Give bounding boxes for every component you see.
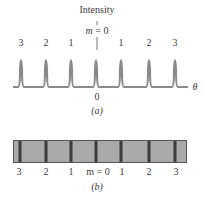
caption-a: (a) — [91, 106, 103, 116]
bright-fringe — [95, 141, 98, 162]
intensity-curve — [0, 0, 205, 110]
bright-fringe — [120, 141, 123, 162]
fringe-label: 2 — [147, 167, 152, 177]
fringe-label: 3 — [17, 167, 22, 177]
bright-fringe — [70, 141, 73, 162]
bright-fringe — [19, 141, 22, 162]
fringe-label-center: m = 0 — [86, 167, 109, 177]
bright-fringe — [174, 141, 177, 162]
bright-fringe — [148, 141, 151, 162]
fringe-label: 2 — [44, 167, 49, 177]
theta-axis-label: θ — [193, 82, 198, 92]
bright-fringe — [45, 141, 48, 162]
fringe-label: 1 — [120, 167, 125, 177]
fringe-pattern-bar — [13, 140, 187, 163]
fringe-label: 3 — [174, 167, 179, 177]
origin-label: 0 — [95, 92, 100, 102]
caption-b: (b) — [91, 182, 103, 192]
fringe-label: 1 — [69, 167, 74, 177]
